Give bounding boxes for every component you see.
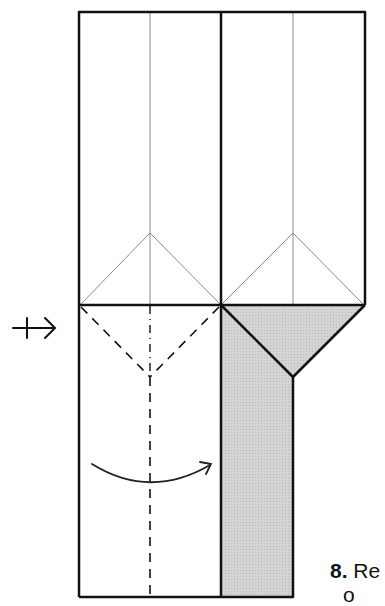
push-arrow-icon	[13, 318, 55, 338]
caption-text-line1: Re	[353, 559, 380, 582]
caption-text-line2: o	[330, 583, 380, 606]
paper-outline	[79, 12, 365, 597]
curved-fold-arrow-icon	[92, 462, 211, 482]
step-number: 8.	[330, 559, 348, 582]
step-caption: 8. Re o	[330, 559, 380, 606]
